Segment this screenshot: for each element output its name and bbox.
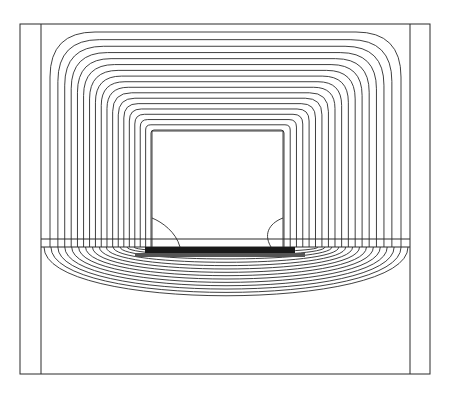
upper-contours	[50, 32, 401, 247]
contour-diagram	[0, 0, 455, 397]
dense-band	[135, 247, 305, 257]
window-corner-curves	[152, 218, 283, 247]
